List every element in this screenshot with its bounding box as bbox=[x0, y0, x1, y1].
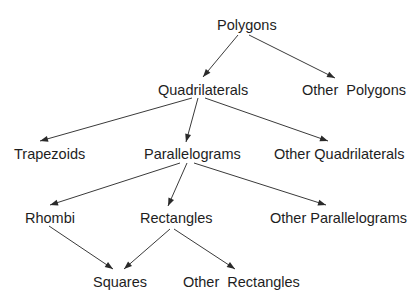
edge-polygons-to-other_polygons bbox=[249, 35, 335, 78]
arrowhead-icon bbox=[40, 136, 49, 142]
arrowhead-icon bbox=[327, 72, 335, 78]
arrowhead-icon bbox=[185, 133, 191, 142]
arrowhead-icon bbox=[317, 200, 326, 206]
edge-polygons-to-quadrilaterals bbox=[203, 35, 238, 77]
node-parallelograms: Parallelograms bbox=[144, 146, 241, 162]
edge-quadrilaterals-to-trapezoids bbox=[40, 98, 192, 141]
edge-rhombi-to-squares bbox=[49, 226, 113, 269]
edge-rectangles-to-squares bbox=[124, 229, 170, 269]
node-other-rectangles: Other Rectangles bbox=[183, 274, 300, 290]
edge-rectangles-to-other_rectangles bbox=[174, 229, 235, 269]
arrowhead-icon bbox=[227, 262, 235, 269]
edge-parallelograms-to-rhombi bbox=[50, 163, 180, 205]
arrowhead-icon bbox=[105, 262, 113, 269]
polygon-hierarchy-diagram: Polygons Quadrilaterals Other Polygons T… bbox=[0, 0, 410, 304]
node-other-polygons: Other Polygons bbox=[302, 82, 406, 98]
node-rectangles: Rectangles bbox=[140, 210, 213, 226]
node-rhombi: Rhombi bbox=[25, 210, 75, 226]
node-other-parallelograms: Other Parallelograms bbox=[270, 210, 407, 226]
edge-parallelograms-to-other_parallelograms bbox=[194, 163, 326, 205]
node-quadrilaterals: Quadrilaterals bbox=[158, 82, 248, 98]
edge-quadrilaterals-to-other_quadrilaterals bbox=[205, 98, 328, 141]
node-labels: Polygons Quadrilaterals Other Polygons T… bbox=[14, 17, 407, 290]
arrowhead-icon bbox=[168, 197, 174, 206]
node-squares: Squares bbox=[93, 274, 147, 290]
node-other-quadrilaterals: Other Quadrilaterals bbox=[274, 146, 405, 162]
arrowhead-icon bbox=[319, 136, 328, 142]
node-polygons: Polygons bbox=[217, 17, 277, 33]
node-trapezoids: Trapezoids bbox=[14, 146, 85, 162]
arrowhead-icon bbox=[50, 200, 59, 206]
